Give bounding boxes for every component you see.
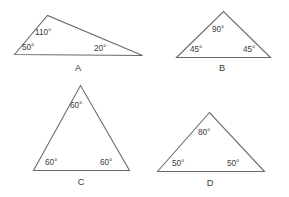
triangle-d-angle-bottom-right: 50° (227, 159, 239, 168)
triangle-c-angle-bottom-left: 60° (45, 158, 57, 167)
triangle-d-group: 80° 50° 50° D (158, 113, 265, 189)
triangle-b-group: 90° 45° 45° B (177, 12, 271, 74)
triangle-a-group: 110° 50° 20° A (15, 16, 143, 74)
triangle-b-angle-bottom-left: 45° (190, 45, 202, 54)
triangles-figure: 110° 50° 20° A 90° 45° 45° B 60° 60° 60°… (0, 0, 289, 197)
triangle-c-angle-apex: 60° (70, 101, 82, 110)
triangle-c-angle-bottom-right: 60° (100, 158, 112, 167)
triangle-c-label: C (78, 177, 85, 187)
triangle-d-angle-bottom-left: 50° (172, 159, 184, 168)
triangle-c-group: 60° 60° 60° C (34, 86, 130, 188)
triangle-b-angle-apex: 90° (212, 25, 224, 34)
triangle-a-angle-apex: 110° (35, 28, 51, 37)
triangle-d-angle-apex: 80° (198, 128, 210, 137)
triangle-a-label: A (75, 63, 82, 73)
triangle-a-angle-bottom-right: 20° (94, 44, 106, 53)
triangle-a-angle-bottom-left: 50° (22, 43, 34, 52)
triangle-b-angle-bottom-right: 45° (243, 45, 255, 54)
triangle-b-label: B (219, 63, 225, 73)
triangle-d-label: D (207, 178, 214, 188)
